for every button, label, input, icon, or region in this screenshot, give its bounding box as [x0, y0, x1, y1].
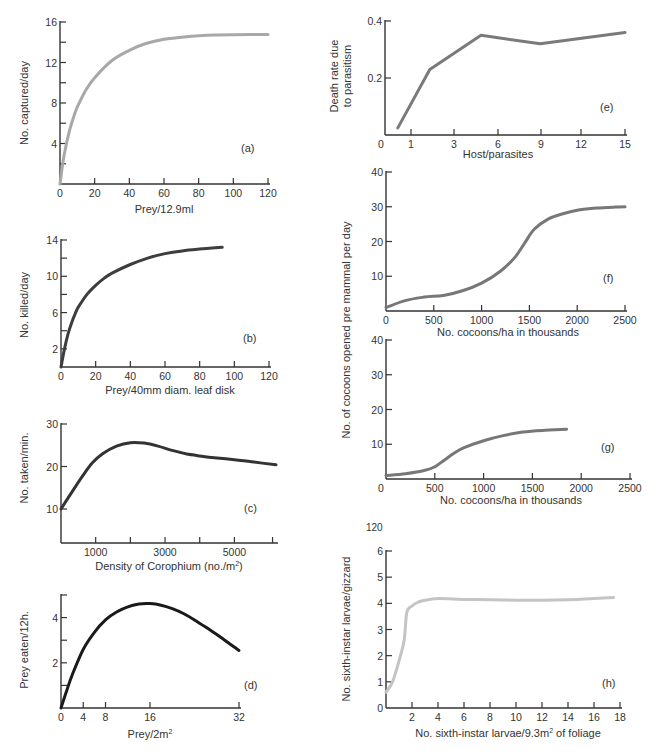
panel-label-e: (e) — [600, 101, 613, 113]
axes-c: 100030005000102030 — [46, 418, 278, 558]
x-origin-label: 0 — [378, 138, 384, 150]
y-tick-label: 10 — [46, 503, 58, 515]
ylabel-c: No. taken/min. — [18, 433, 30, 504]
curve-a — [60, 35, 268, 184]
y-tick-label: 10 — [371, 270, 383, 282]
panel-h: 246810121416180123456 No. sixth-instar l… — [340, 545, 626, 739]
ylabel-fg: No. of cocoons opened pre mammal per day — [340, 221, 352, 439]
x-tick-label: 5000 — [223, 546, 247, 558]
x-tick-label: 2000 — [570, 482, 594, 494]
curve-h — [386, 598, 614, 693]
x-tick-label: 4 — [435, 711, 441, 723]
y-tick-label: 16 — [45, 16, 57, 28]
y-tick-label: 0.4 — [367, 15, 382, 27]
x-tick-label: 80 — [193, 187, 205, 199]
x-tick-label: 0 — [58, 711, 64, 723]
stray-label-120: 120 — [366, 522, 383, 533]
x-tick-label: 60 — [159, 370, 171, 382]
x-tick-label: 18 — [614, 711, 626, 723]
x-tick-label: 100 — [226, 370, 244, 382]
panel-f: 0500100015002000250010203040 No. cocoons… — [371, 166, 637, 338]
y-tick-label: 12 — [45, 57, 57, 69]
x-tick-label: 1000 — [470, 314, 494, 326]
x-tick-label: 500 — [426, 482, 444, 494]
xlabel-h: No. sixth-instar larvae/9.3m2 of foliage — [415, 727, 601, 739]
xlabel-c: Density of Corophium (no./m2) — [95, 560, 243, 572]
y-tick-label: 20 — [46, 461, 58, 473]
x-tick-label: 40 — [123, 187, 135, 199]
x-tick-label: 8 — [487, 711, 493, 723]
x-tick-label: 8 — [103, 711, 109, 723]
y-tick-label: 10 — [46, 270, 58, 282]
curve-b — [61, 247, 222, 367]
x-tick-label: 6 — [461, 711, 467, 723]
x-tick-label: 40 — [124, 370, 136, 382]
xlabel-g: No. cocoons/ha in thousands — [440, 494, 582, 506]
panel-label-d: (d) — [244, 679, 257, 691]
x-tick-label: 10 — [510, 711, 522, 723]
x-tick-label: 1500 — [518, 314, 542, 326]
x-tick-label: 120 — [259, 187, 277, 199]
y-tick-label: 6 — [377, 545, 383, 557]
y-tick-label: 0 — [377, 702, 383, 714]
axes-f: 0500100015002000250010203040 — [371, 166, 637, 326]
y-tick-label: 2 — [52, 343, 58, 355]
x-tick-label: 60 — [158, 187, 170, 199]
x-tick-label: 15 — [619, 138, 631, 150]
y-tick-label: 14 — [46, 234, 58, 246]
x-tick-label: 1000 — [84, 546, 108, 558]
x-tick-label: 100 — [225, 187, 243, 199]
xlabel-e: Host/parasites — [463, 148, 534, 160]
panel-g: 5001000150020002500010203040 No. cocoons… — [371, 334, 642, 506]
xlabel-a: Prey/12.9ml — [135, 203, 194, 215]
x-tick-label: 16 — [144, 711, 156, 723]
y-tick-label: 30 — [46, 418, 58, 430]
x-tick-label: 0 — [58, 370, 64, 382]
panel-label-h: (h) — [602, 677, 615, 689]
x-tick-label: 16 — [588, 711, 600, 723]
axes-e: 1369121500.20.4 — [367, 15, 631, 150]
panel-a: 020406080100120481216 No. captured/day P… — [18, 16, 277, 215]
x-tick-label: 3000 — [153, 546, 177, 558]
y-tick-label: 8 — [51, 97, 57, 109]
y-tick-label: 20 — [371, 404, 383, 416]
axes-d: 048163224 — [52, 594, 245, 723]
y-tick-label: 1 — [377, 676, 383, 688]
x-tick-label: 1500 — [521, 482, 545, 494]
xlabel-d: Prey/2m2 — [128, 728, 173, 740]
panel-e: 1369121500.20.4 Death rate due to parasi… — [328, 15, 631, 160]
panel-label-a: (a) — [241, 142, 254, 154]
y-tick-label: 40 — [371, 334, 383, 346]
x-tick-label: 20 — [90, 370, 102, 382]
x-origin-label: 0 — [378, 482, 384, 494]
panel-d: 048163224 Prey eaten/12h. Prey/2m2 (d) — [18, 594, 257, 740]
panel-label-b: (b) — [243, 332, 256, 344]
x-tick-label: 120 — [260, 370, 278, 382]
y-tick-label: 40 — [371, 166, 383, 178]
ylabel-e-line1: Death rate due — [328, 40, 340, 113]
x-tick-label: 500 — [425, 314, 443, 326]
axes-g: 5001000150020002500010203040 — [371, 334, 642, 494]
x-tick-label: 12 — [575, 138, 587, 150]
x-tick-label: 2500 — [613, 314, 637, 326]
curve-d — [61, 604, 239, 708]
axes-h: 246810121416180123456 — [377, 545, 626, 723]
x-tick-label: 3 — [451, 138, 457, 150]
panel-label-g: (g) — [601, 441, 614, 453]
x-tick-label: 1 — [408, 138, 414, 150]
y-tick-label: 3 — [377, 624, 383, 636]
x-tick-label: 1000 — [472, 482, 496, 494]
ylabel-h: No. sixth-instar larvae/gizzard — [340, 557, 352, 702]
y-tick-label: 2 — [52, 657, 58, 669]
x-tick-label: 2500 — [618, 482, 642, 494]
y-tick-label: 5 — [377, 571, 383, 583]
x-tick-label: 32 — [233, 711, 245, 723]
x-tick-label: 2000 — [566, 314, 590, 326]
ylabel-d: Prey eaten/12h. — [18, 611, 30, 689]
axes-a: 020406080100120481216 — [45, 16, 277, 199]
x-tick-label: 80 — [194, 370, 206, 382]
panel-b: 020406080100120261014 No. killed/day Pre… — [18, 234, 278, 396]
panel-label-c: (c) — [244, 502, 257, 514]
x-tick-label: 2 — [409, 711, 415, 723]
x-tick-label: 4 — [80, 711, 86, 723]
